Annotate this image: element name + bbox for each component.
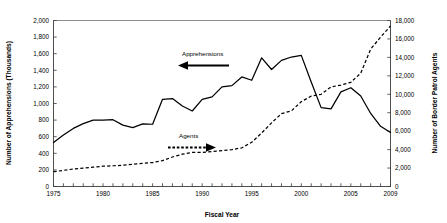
x-axis-tick-labels: 19751980198519901995200020052009 [46, 190, 398, 197]
annotation-apprehensions-arrow-head [178, 61, 188, 70]
y2-tick-label: 0 [395, 183, 399, 190]
chart-container: 19751980198519901995200020052009 0200400… [0, 0, 447, 223]
y-tick-label: 1,400 [33, 67, 49, 74]
x-axis-title: Fiscal Year [205, 211, 240, 218]
series-line-apprehensions [54, 55, 391, 142]
x-tick-label: 1975 [46, 190, 61, 197]
plot-frame [54, 21, 391, 187]
y-tick-label: 600 [38, 133, 49, 140]
y-tick-label: 0 [45, 183, 49, 190]
y2-tick-label: 4,000 [395, 146, 411, 153]
y-tick-label: 2,000 [33, 17, 49, 24]
series-line-agents [54, 26, 391, 172]
y-axis-left-ticks [54, 21, 57, 187]
x-tick-label: 2005 [344, 190, 359, 197]
x-tick-label: 2000 [294, 190, 309, 197]
y2-tick-label: 16,000 [395, 35, 415, 42]
y-tick-label: 1,200 [33, 83, 49, 90]
y2-tick-label: 14,000 [395, 54, 415, 61]
y2-tick-label: 10,000 [395, 91, 415, 98]
y-tick-label: 1,600 [33, 50, 49, 57]
annotation-apprehensions: Apprehensions [178, 50, 229, 70]
data-series-group [54, 26, 391, 172]
x-tick-label: 1985 [146, 190, 161, 197]
annotation-agents-arrow-head [206, 143, 216, 152]
y2-tick-label: 8,000 [395, 109, 411, 116]
x-axis-ticks [54, 183, 391, 186]
y-tick-label: 400 [38, 150, 49, 157]
y-axis-left-tick-labels: 02004006008001,0001,2001,4001,6001,8002,… [33, 17, 49, 190]
y2-tick-label: 12,000 [395, 72, 415, 79]
y-tick-label: 1,000 [33, 100, 49, 107]
annotation-agents: Agents [168, 132, 216, 152]
y-tick-label: 800 [38, 116, 49, 123]
dual-axis-line-chart: 19751980198519901995200020052009 0200400… [0, 0, 447, 223]
x-tick-label: 1995 [245, 190, 260, 197]
y2-tick-label: 2,000 [395, 164, 411, 171]
y-axis-right-tick-labels: 02,0004,0006,0008,00010,00012,00014,0001… [395, 17, 415, 190]
annotation-agents-label: Agents [179, 132, 198, 139]
y2-tick-label: 18,000 [395, 17, 415, 24]
annotation-apprehensions-label: Apprehensions [182, 50, 223, 57]
y-tick-label: 200 [38, 166, 49, 173]
y-tick-label: 1,800 [33, 33, 49, 40]
x-tick-label: 1980 [96, 190, 111, 197]
x-tick-label: 1990 [195, 190, 210, 197]
y-axis-right-title: Number of Border Patrol Agents [431, 52, 439, 153]
y-axis-right-ticks [387, 21, 390, 187]
x-tick-label: 2009 [383, 190, 398, 197]
y2-tick-label: 6,000 [395, 127, 411, 134]
y-axis-left-title: Number of Apprehensions (Thousands) [5, 41, 13, 165]
